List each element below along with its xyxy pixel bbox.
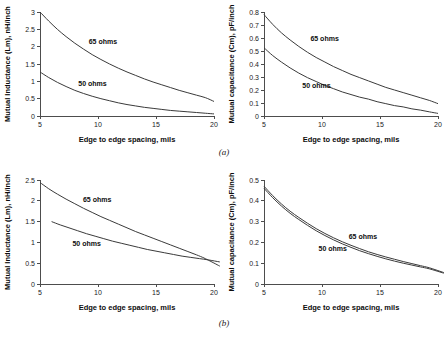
x-axis-tick-label: 5 bbox=[262, 121, 266, 128]
figure-caption-a: (a) bbox=[0, 147, 448, 157]
x-axis-tick-label: 20 bbox=[210, 289, 218, 296]
series-label: 50 ohms bbox=[78, 80, 107, 87]
x-axis-title: Edge to edge spacing, mils bbox=[303, 135, 400, 144]
x-axis-tick-label: 15 bbox=[376, 121, 384, 128]
y-axis-tick-label: 1.5 bbox=[25, 61, 35, 68]
panel-a-capacitance: 00.10.20.30.40.50.60.70.85101520Edge to … bbox=[224, 2, 448, 150]
y-axis-tick-label: 0.3 bbox=[249, 218, 259, 225]
x-axis-tick-label: 5 bbox=[262, 289, 266, 296]
series-curve bbox=[264, 186, 444, 272]
series-label: 65 ohms bbox=[83, 196, 112, 203]
series-curve bbox=[264, 188, 444, 273]
x-axis-tick-label: 10 bbox=[94, 121, 102, 128]
y-axis-tick-label: 0.4 bbox=[249, 61, 259, 68]
x-axis-title: Edge to edge spacing, mils bbox=[79, 303, 176, 312]
series-label: 65 ohms bbox=[310, 35, 339, 42]
y-axis-tick-label: 0 bbox=[255, 281, 259, 288]
y-axis-tick-label: 1.5 bbox=[25, 218, 35, 225]
chart-panel-a-inductance: 00.511.522.535101520Edge to edge spacing… bbox=[0, 2, 224, 150]
series-curve bbox=[40, 183, 220, 267]
y-axis-tick-label: 0.3 bbox=[249, 74, 259, 81]
x-axis-tick-label: 15 bbox=[152, 121, 160, 128]
panel-row-b: 00.511.522.55101520Edge to edge spacing,… bbox=[0, 170, 448, 318]
x-axis-tick-label: 15 bbox=[376, 289, 384, 296]
y-axis-title: Mutual Inductance (Lm), nH/inch bbox=[3, 174, 12, 290]
chart-panel-b-inductance: 00.511.522.55101520Edge to edge spacing,… bbox=[0, 170, 224, 318]
x-axis-tick-label: 20 bbox=[434, 121, 442, 128]
y-axis-tick-label: 2.5 bbox=[25, 177, 35, 184]
y-axis-tick-label: 0.1 bbox=[249, 100, 259, 107]
series-label: 50 ohms bbox=[72, 240, 101, 247]
y-axis-tick-label: 0 bbox=[255, 113, 259, 120]
x-axis-tick-label: 5 bbox=[38, 121, 42, 128]
y-axis-tick-label: 2 bbox=[31, 43, 35, 50]
y-axis-tick-label: 0.1 bbox=[249, 260, 259, 267]
series-curve bbox=[264, 15, 438, 104]
panel-a-inductance: 00.511.522.535101520Edge to edge spacing… bbox=[0, 2, 224, 150]
panel-b-capacitance: 00.10.20.30.40.55101520Edge to edge spac… bbox=[224, 170, 448, 318]
x-axis-tick-label: 5 bbox=[38, 289, 42, 296]
y-axis-tick-label: 0.5 bbox=[25, 95, 35, 102]
x-axis-title: Edge to edge spacing, mils bbox=[303, 303, 400, 312]
y-axis-title: Mutual Inductance (Lm), nH/inch bbox=[3, 6, 12, 122]
y-axis-tick-label: 0.2 bbox=[249, 239, 259, 246]
y-axis-tick-label: 2.5 bbox=[25, 26, 35, 33]
x-axis-title: Edge to edge spacing, mils bbox=[79, 135, 176, 144]
figure-caption-b: (b) bbox=[0, 318, 448, 328]
y-axis-tick-label: 0.5 bbox=[249, 177, 259, 184]
x-axis-tick-label: 10 bbox=[318, 121, 326, 128]
y-axis-tick-label: 2 bbox=[31, 197, 35, 204]
y-axis-tick-label: 0.8 bbox=[249, 9, 259, 16]
series-label: 50 ohms bbox=[302, 82, 331, 89]
y-axis-tick-label: 0.5 bbox=[25, 260, 35, 267]
y-axis-tick-label: 3 bbox=[31, 9, 35, 16]
figure-container: 00.511.522.535101520Edge to edge spacing… bbox=[0, 0, 448, 341]
panel-b-inductance: 00.511.522.55101520Edge to edge spacing,… bbox=[0, 170, 224, 318]
x-axis-tick-label: 20 bbox=[210, 121, 218, 128]
series-label: 65 ohms bbox=[349, 233, 378, 240]
y-axis-tick-label: 1 bbox=[31, 78, 35, 85]
y-axis-title: Mutual capacitance (Cm), pF/inch bbox=[227, 4, 236, 124]
y-axis-tick-label: 0.6 bbox=[249, 35, 259, 42]
x-axis-tick-label: 15 bbox=[152, 289, 160, 296]
y-axis-tick-label: 0 bbox=[31, 281, 35, 288]
y-axis-tick-label: 0.5 bbox=[249, 48, 259, 55]
series-curve bbox=[40, 12, 214, 101]
y-axis-tick-label: 0.4 bbox=[249, 197, 259, 204]
series-label: 50 ohms bbox=[319, 245, 348, 252]
series-curve bbox=[264, 48, 438, 114]
y-axis-tick-label: 0 bbox=[31, 113, 35, 120]
chart-panel-b-capacitance: 00.10.20.30.40.55101520Edge to edge spac… bbox=[224, 170, 448, 318]
y-axis-title: Mutual capacitance (Cm), pF/inch bbox=[227, 172, 236, 292]
panel-row-a: 00.511.522.535101520Edge to edge spacing… bbox=[0, 2, 448, 150]
x-axis-tick-label: 20 bbox=[434, 289, 442, 296]
x-axis-tick-label: 10 bbox=[94, 289, 102, 296]
y-axis-tick-label: 0.7 bbox=[249, 22, 259, 29]
chart-panel-a-capacitance: 00.10.20.30.40.50.60.70.85101520Edge to … bbox=[224, 2, 448, 150]
y-axis-tick-label: 0.2 bbox=[249, 87, 259, 94]
series-label: 65 ohms bbox=[89, 38, 118, 45]
x-axis-tick-label: 10 bbox=[318, 289, 326, 296]
y-axis-tick-label: 1 bbox=[31, 239, 35, 246]
